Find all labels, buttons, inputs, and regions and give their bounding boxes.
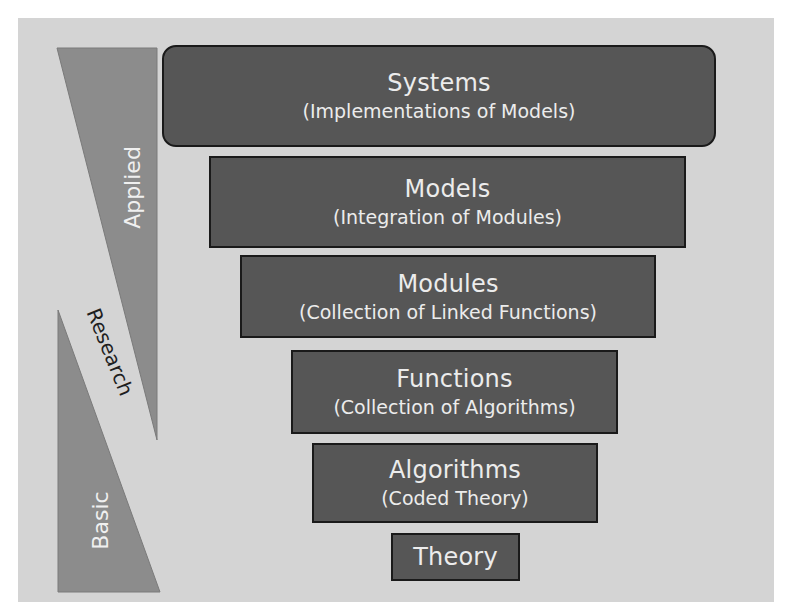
level-title: Functions <box>396 364 512 394</box>
level-subtitle: (Implementations of Models) <box>303 98 576 124</box>
level-title: Theory <box>413 542 498 572</box>
level-models: Models (Integration of Modules) <box>209 156 686 248</box>
level-algorithms: Algorithms (Coded Theory) <box>312 443 598 523</box>
level-modules: Modules (Collection of Linked Functions) <box>240 255 656 338</box>
level-title: Modules <box>397 269 498 299</box>
level-subtitle: (Collection of Algorithms) <box>333 394 575 420</box>
level-theory: Theory <box>391 533 520 581</box>
level-systems: Systems (Implementations of Models) <box>162 45 716 147</box>
level-functions: Functions (Collection of Algorithms) <box>291 350 618 434</box>
basic-label: Basic <box>88 481 113 561</box>
level-subtitle: (Coded Theory) <box>381 485 529 511</box>
level-subtitle: (Collection of Linked Functions) <box>299 299 597 325</box>
level-title: Algorithms <box>389 455 521 485</box>
level-title: Systems <box>387 68 490 98</box>
level-title: Models <box>405 174 491 204</box>
level-subtitle: (Integration of Modules) <box>333 204 562 230</box>
applied-label: Applied <box>120 138 145 238</box>
